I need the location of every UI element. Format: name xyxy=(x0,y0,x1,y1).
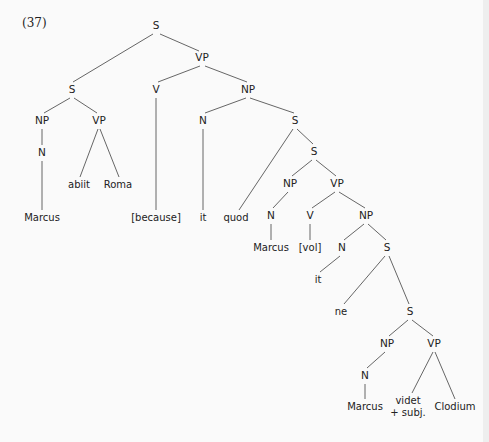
tree-branch xyxy=(389,320,408,336)
tree-node-word: quod xyxy=(223,212,248,223)
tree-branch xyxy=(44,98,70,113)
tree-branch xyxy=(239,129,293,210)
tree-branch xyxy=(73,34,153,82)
tree-branch xyxy=(344,256,385,304)
tree-branch xyxy=(292,160,312,176)
tree-branch xyxy=(74,98,97,113)
tree-branch xyxy=(100,129,119,177)
tree-branch xyxy=(205,66,247,82)
tree-branch xyxy=(344,224,364,240)
tree-branch xyxy=(80,129,98,177)
tree-node-category: N xyxy=(38,147,46,158)
tree-node-word: videt xyxy=(395,395,420,406)
tree-branch xyxy=(158,66,200,82)
tree-node-category: V xyxy=(306,210,313,221)
tree-node-category: S xyxy=(407,306,414,317)
tree-node-category: VP xyxy=(195,52,209,63)
tree-node-word: + subj. xyxy=(390,407,425,418)
tree-branch xyxy=(412,320,433,336)
tree-node-category: S xyxy=(384,242,391,253)
tree-node-category: NP xyxy=(283,178,297,189)
tree-branch xyxy=(320,256,340,272)
tree-branch xyxy=(316,160,336,176)
tree-node-word: Marcus xyxy=(253,242,289,253)
tree-node-category: S xyxy=(311,146,318,157)
tree-node-category: N xyxy=(361,370,369,381)
tree-node-word: it xyxy=(315,274,322,285)
tree-node-category: VP xyxy=(92,115,106,126)
tree-node-category: NP xyxy=(359,210,373,221)
tree-node-word: [vol] xyxy=(299,242,322,253)
tree-node-word: [because] xyxy=(131,212,181,223)
tree-node-word: it xyxy=(200,212,207,223)
tree-node-category: NP xyxy=(241,84,255,95)
tree-node-category: S xyxy=(292,115,299,126)
tree-branch xyxy=(389,256,409,304)
tree-branch xyxy=(368,224,386,240)
tree-branch xyxy=(339,192,365,208)
tree-node-category: VP xyxy=(330,178,344,189)
tree-branch xyxy=(250,98,294,113)
tree-node-word: abiit xyxy=(68,179,90,190)
tree-node-category: VP xyxy=(427,338,441,349)
example-number: (37) xyxy=(22,16,47,30)
tree-node-word: Clodium xyxy=(434,401,475,412)
tree-branch xyxy=(312,192,335,208)
tree-node-category: V xyxy=(152,84,159,95)
tree-branch xyxy=(205,98,246,113)
tree-node-category: NP xyxy=(380,338,394,349)
tree-node-category: N xyxy=(199,115,207,126)
tree-node-category: S xyxy=(69,84,76,95)
tree-node-word: Marcus xyxy=(347,401,383,412)
tree-node-category: N xyxy=(267,210,275,221)
tree-branch xyxy=(273,192,288,208)
tree-branch xyxy=(435,352,455,399)
tree-node-category: S xyxy=(153,20,160,31)
tree-branch xyxy=(160,34,199,51)
tree-branch xyxy=(367,352,385,368)
tree-branch xyxy=(412,352,433,393)
tree-node-category: NP xyxy=(35,115,49,126)
tree-node-word: ne xyxy=(335,306,348,317)
tree-node-word: Roma xyxy=(104,179,133,190)
tree-branch xyxy=(297,129,313,144)
tree-node-category: N xyxy=(338,242,346,253)
tree-node-word: Marcus xyxy=(24,212,60,223)
